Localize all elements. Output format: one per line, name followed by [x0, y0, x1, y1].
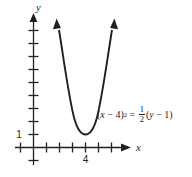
x-axis-tick-label-4: 4 — [83, 154, 89, 165]
x-axis-arrowhead — [121, 143, 131, 151]
parabola-graph-figure: y x 1 4 (x − 4)2 = 12(y − 1) — [0, 0, 192, 177]
equation-equals-sign: = — [127, 110, 138, 120]
equation-rhs-close: ) — [169, 110, 172, 120]
equation-lhs-minus: − — [105, 110, 116, 120]
y-axis-tick-label-1: 1 — [16, 129, 22, 140]
parabola-left-arrowhead — [53, 19, 61, 30]
equation-annotation: (x − 4)2 = 12(y − 1) — [97, 105, 173, 124]
fraction-denominator: 2 — [139, 115, 145, 124]
x-axis-label: x — [135, 142, 141, 153]
parabola-right-arrowhead — [110, 19, 118, 30]
graph-canvas: y x 1 4 — [0, 0, 192, 177]
y-axis-label: y — [35, 2, 41, 13]
equation-rhs-minus: − — [154, 110, 165, 120]
equation-fraction: 12 — [139, 105, 145, 124]
y-axis-arrowhead — [30, 13, 38, 22]
fraction-numerator: 1 — [139, 105, 145, 114]
